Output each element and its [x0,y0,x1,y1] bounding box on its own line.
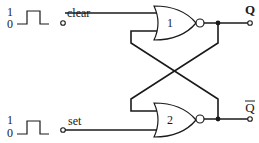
qbar-output-terminal [248,117,253,122]
set-input-label: set [68,114,82,128]
qbar-junction-dot [216,117,221,122]
sr-latch-diagram: 1 0 clear 1 0 set 1 Q 2 Q [0,0,259,143]
set-pulse-icon [17,121,49,134]
nor-gate-2: 2 [154,103,204,137]
set-pulse-high-label: 1 [7,113,13,127]
set-pulse-low-label: 0 [7,126,13,140]
nor-gate-2-body-icon [154,103,196,137]
nor-gate-2-inversion-bubble-icon [196,115,204,123]
nor-gate-2-label: 2 [167,113,173,127]
qbar-output-label: Q [245,100,255,115]
nor-gate-1-body-icon [154,6,196,40]
nor-gate-1-inversion-bubble-icon [196,19,204,27]
q-output-terminal [248,21,253,26]
clear-input-terminal [61,21,66,26]
q-output-label: Q [245,2,255,17]
q-junction-dot [216,21,221,26]
clear-pulse-icon [17,11,49,24]
clear-pulse-low-label: 0 [7,17,13,31]
nor-gate-1-label: 1 [167,16,173,30]
clear-pulse-waveform: 1 0 [7,5,49,31]
set-input-terminal [61,128,66,133]
nor-gate-1: 1 [154,6,204,40]
set-pulse-waveform: 1 0 [7,113,49,140]
